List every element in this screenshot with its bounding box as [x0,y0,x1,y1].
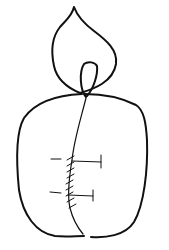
wick-loop [81,62,97,97]
body-outline [17,94,147,237]
sketch-canvas [0,0,169,250]
seam-line [69,98,86,234]
upper-marker [51,155,101,168]
seam-stitches [66,156,76,208]
candle-sketch-icon [0,0,169,250]
flame-outline [52,7,116,93]
